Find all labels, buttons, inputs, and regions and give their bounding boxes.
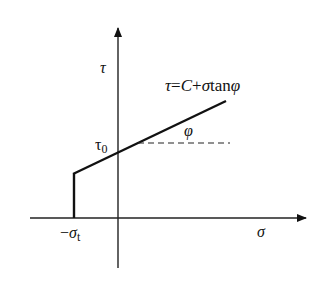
x-axis-label: σ [257, 223, 266, 240]
eq-tan: tan [210, 76, 231, 95]
tension-minus: − [60, 224, 69, 241]
eq-plus: + [192, 76, 202, 95]
tension-subscript: t [77, 230, 81, 244]
eq-phi: φ [231, 76, 240, 95]
intercept-label: τ0 [95, 136, 107, 156]
strength-envelope-diagram: τ σ τ=C+σtanφ τ0 φ −σt [0, 0, 317, 282]
intercept-subscript: 0 [101, 142, 107, 156]
y-axis-label: τ [100, 59, 107, 76]
friction-angle-label: φ [184, 122, 193, 140]
equation-label: τ=C+σtanφ [165, 76, 240, 95]
eq-c: C [181, 76, 193, 95]
eq-equals: = [171, 76, 181, 95]
tension-strength-label: −σt [60, 224, 81, 244]
